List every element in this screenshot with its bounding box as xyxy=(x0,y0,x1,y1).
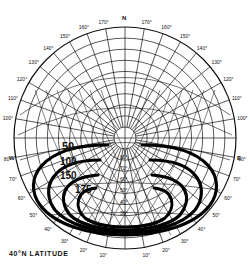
azimuth-label: 140° xyxy=(197,45,207,51)
azimuth-label: 110° xyxy=(8,95,18,101)
azimuth-label: 120° xyxy=(17,76,27,82)
contour-label: 150 xyxy=(60,170,77,181)
contour-label: 100 xyxy=(60,156,77,167)
azimuth-label: 80° xyxy=(238,156,246,162)
altitude-label: 70° xyxy=(120,165,128,171)
azimuth-line xyxy=(136,119,234,136)
azimuth-label: 170° xyxy=(99,19,109,25)
azimuth-label: 40° xyxy=(198,226,206,232)
azimuth-label: 160° xyxy=(161,24,171,30)
azimuth-label: 100° xyxy=(237,115,247,121)
azimuth-label: 30° xyxy=(181,238,189,244)
azimuth-label: 10° xyxy=(142,252,150,258)
altitude-label: 40° xyxy=(120,199,128,205)
azimuth-label: 40° xyxy=(44,226,52,232)
azimuth-label: 20° xyxy=(162,247,170,253)
sun-path-diagram: 50100150175NWE100°110°120°130°140°150°16… xyxy=(0,0,250,267)
contour-label: 50 xyxy=(62,140,74,152)
azimuth-label: 120° xyxy=(223,76,233,82)
azimuth-label: 10° xyxy=(100,252,108,258)
azimuth-label: 20° xyxy=(80,247,88,253)
azimuth-label: 130° xyxy=(29,59,39,65)
azimuth-label: 150° xyxy=(60,33,70,39)
azimuth-line xyxy=(136,140,234,157)
latitude-caption: 40°N LATITUDE xyxy=(9,250,68,257)
azimuth-label: 140° xyxy=(43,45,53,51)
azimuth-label: 50° xyxy=(212,212,220,218)
azimuth-label: 50° xyxy=(30,212,38,218)
azimuth-label: 130° xyxy=(211,59,221,65)
azimuth-label: 160° xyxy=(79,24,89,30)
azimuth-label: 70° xyxy=(233,176,241,182)
altitude-label: 50° xyxy=(120,187,128,193)
altitude-label: 60° xyxy=(120,176,128,182)
azimuth-label: 60° xyxy=(224,195,232,201)
azimuth-label: 70° xyxy=(9,176,17,182)
altitude-label: 30° xyxy=(120,210,128,216)
azimuth-label: 170° xyxy=(141,19,151,25)
contour-label: 175 xyxy=(75,184,92,195)
azimuth-label: 150° xyxy=(180,33,190,39)
azimuth-label: 110° xyxy=(232,95,242,101)
azimuth-label: 100° xyxy=(3,115,13,121)
azimuth-label: 30° xyxy=(61,238,69,244)
azimuth-label: 80° xyxy=(4,156,12,162)
azimuth-label: 60° xyxy=(18,195,26,201)
north-label: N xyxy=(122,15,126,21)
altitude-label: 80° xyxy=(120,154,128,160)
azimuth-line xyxy=(16,119,114,136)
